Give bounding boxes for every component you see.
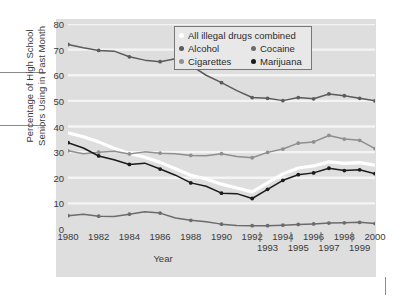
y-axis-tick-label: 80: [53, 19, 64, 30]
data-point-marker: [327, 92, 331, 96]
legend-marker-dot-icon: [251, 59, 256, 64]
data-point-marker: [189, 218, 193, 222]
data-point-marker: [68, 149, 70, 153]
y-axis-tick-label: 30: [53, 147, 64, 158]
data-point-marker: [68, 214, 70, 218]
data-point-marker: [158, 211, 162, 215]
data-point-marker: [250, 156, 254, 160]
y-axis-tick-label: 60: [53, 70, 64, 81]
data-point-marker: [281, 99, 285, 103]
y-axis-title-line-1: Percentage of High School: [24, 6, 36, 166]
data-point-marker: [342, 137, 346, 141]
data-point-marker: [358, 168, 362, 172]
chart-legend: All illegal drugs combinedAlcoholCocaine…: [174, 26, 312, 70]
data-point-marker: [342, 221, 346, 225]
data-point-marker: [296, 96, 300, 100]
x-axis-tick-label-secondary: 1993: [257, 242, 278, 253]
x-axis-tick-separator: [259, 232, 260, 242]
data-point-marker: [312, 97, 316, 101]
legend-row: All illegal drugs combined: [179, 29, 307, 42]
series-line: [68, 133, 375, 192]
x-axis-title: Year: [68, 253, 258, 264]
data-point-marker: [312, 171, 316, 175]
legend-item-label: Cigarettes: [188, 56, 231, 67]
x-axis-tick-separator: [321, 232, 322, 242]
data-point-marker: [158, 60, 162, 64]
data-point-marker: [373, 99, 375, 103]
data-point-marker: [296, 141, 300, 145]
data-point-marker: [220, 222, 224, 226]
data-point-marker: [358, 138, 362, 142]
data-point-marker: [220, 81, 224, 85]
y-axis-tick-label: 40: [53, 121, 64, 132]
data-point-marker: [128, 55, 132, 59]
legend-item-label: Marijuana: [260, 56, 302, 67]
legend-item: Marijuana: [251, 56, 302, 67]
data-point-marker: [266, 96, 270, 100]
legend-item-label: Alcohol: [188, 43, 219, 54]
data-point-marker: [373, 172, 375, 176]
data-point-marker: [327, 221, 331, 225]
y-axis-tick-label: 10: [53, 198, 64, 209]
data-point-marker: [266, 224, 270, 228]
legend-marker-dot-icon: [251, 46, 256, 51]
x-axis-tick-label: 2000: [364, 231, 385, 242]
x-axis-tick-label-secondary: 1995: [288, 242, 309, 253]
data-point-marker: [220, 191, 224, 195]
y-axis-tick-labels: 01020304050607080: [40, 24, 64, 229]
y-axis-tick-label: 70: [53, 44, 64, 55]
data-point-marker: [266, 187, 270, 191]
legend-item-label: Cocaine: [260, 43, 295, 54]
legend-item: All illegal drugs combined: [179, 30, 296, 41]
data-point-marker: [97, 214, 101, 218]
x-axis-tick-separator: [351, 232, 352, 242]
x-axis-tick-label-secondary: 1999: [349, 242, 370, 253]
data-point-marker: [327, 166, 331, 170]
legend-item: Alcohol: [179, 43, 251, 54]
data-point-marker: [189, 181, 193, 185]
data-point-marker: [358, 220, 362, 224]
data-point-marker: [342, 169, 346, 173]
data-point-marker: [296, 222, 300, 226]
data-point-marker: [342, 94, 346, 98]
legend-item: Cigarettes: [179, 56, 251, 67]
y-axis-tick-label: 20: [53, 172, 64, 183]
data-point-marker: [250, 197, 254, 201]
data-point-marker: [312, 140, 316, 144]
x-axis-tick-label: 1986: [150, 231, 171, 242]
legend-row: CigarettesMarijuana: [179, 55, 307, 68]
data-point-marker: [189, 154, 193, 158]
legend-marker-dot-icon: [179, 59, 184, 64]
x-axis-tick-label: 1990: [211, 231, 232, 242]
legend-marker-dot-icon: [179, 33, 184, 38]
y-axis-tick-label: 50: [53, 95, 64, 106]
data-point-marker: [128, 152, 132, 156]
x-axis-tick-label-secondary: 1997: [318, 242, 339, 253]
x-axis-tick-separator: [290, 232, 291, 242]
data-point-marker: [281, 147, 285, 151]
data-point-marker: [158, 167, 162, 171]
series-cocaine: [68, 211, 375, 227]
legend-item: Cocaine: [251, 43, 295, 54]
legend-item-label: All illegal drugs combined: [188, 30, 296, 41]
data-point-marker: [97, 48, 101, 52]
series-all-illegal-drugs-combined: [68, 133, 375, 192]
data-point-marker: [97, 154, 101, 158]
legend-marker-dot-icon: [179, 46, 184, 51]
data-point-marker: [68, 43, 70, 47]
data-point-marker: [250, 224, 254, 228]
legend-row: AlcoholCocaine: [179, 42, 307, 55]
data-point-marker: [220, 152, 224, 156]
x-axis-tick-label: 1988: [180, 231, 201, 242]
data-point-marker: [312, 222, 316, 226]
data-point-marker: [281, 178, 285, 182]
data-point-marker: [373, 222, 375, 226]
data-point-marker: [327, 134, 331, 138]
data-point-marker: [97, 150, 101, 154]
data-point-marker: [281, 223, 285, 227]
data-point-marker: [266, 150, 270, 154]
scan-artifact-tick: [385, 277, 386, 295]
data-point-marker: [250, 96, 254, 100]
data-point-marker: [358, 96, 362, 100]
data-point-marker: [128, 212, 132, 216]
